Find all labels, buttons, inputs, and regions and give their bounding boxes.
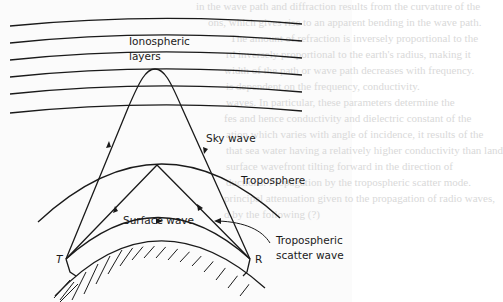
surface-wave-label: Surface wave	[123, 215, 194, 226]
ionospheric-layer-4	[10, 69, 302, 77]
ionospheric-label-line1: Ionospheric	[129, 36, 190, 47]
ionospheric-layer-5	[10, 86, 302, 94]
transmitter-label: T	[56, 254, 62, 265]
ionospheric-layers	[10, 18, 302, 113]
tropospheric-scatter-label-line1: Tropospheric	[276, 235, 343, 246]
sky-wave-down-arrow-icon	[203, 147, 208, 154]
ionospheric-label-line2: layers	[129, 51, 161, 62]
sky-wave-up-arrow-icon	[106, 141, 111, 148]
ionospheric-layer-6	[10, 105, 302, 113]
sky-wave-label: Sky wave	[206, 133, 256, 144]
transmitter-antenna-icon	[66, 259, 76, 276]
earth-hatching	[60, 242, 254, 300]
receiver-label: R	[255, 254, 262, 265]
troposphere-label: Troposphere	[241, 175, 305, 186]
tropospheric-scatter-label-line2: scatter wave	[276, 250, 344, 261]
ionospheric-layer-1	[10, 18, 302, 26]
tropospheric-scatter-path	[66, 165, 250, 259]
earth-hatching-left	[54, 280, 78, 302]
